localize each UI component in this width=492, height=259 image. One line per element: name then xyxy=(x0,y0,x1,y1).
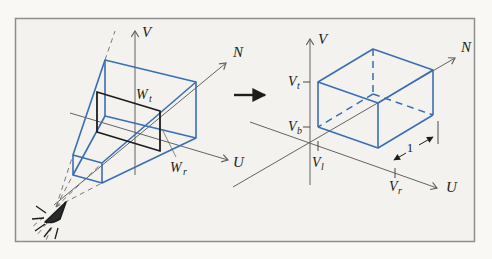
right-u-axis-label: U xyxy=(446,179,458,195)
svg-text:l: l xyxy=(321,161,324,172)
diagram-canvas: V N U W t W r xyxy=(0,0,492,259)
right-n-axis-label: N xyxy=(460,39,472,55)
depth-dimension-label: 1 xyxy=(407,140,414,155)
svg-text:r: r xyxy=(398,185,402,196)
figure-frame xyxy=(16,19,475,242)
svg-text:W: W xyxy=(170,160,183,175)
svg-text:W: W xyxy=(136,87,149,102)
left-n-axis-label: N xyxy=(232,44,244,60)
left-u-axis-label: U xyxy=(233,154,245,170)
svg-text:t: t xyxy=(297,80,300,91)
view-volume-diagram: V N U W t W r xyxy=(0,0,492,259)
svg-text:r: r xyxy=(183,166,187,177)
svg-text:b: b xyxy=(297,125,302,136)
svg-text:t: t xyxy=(149,93,152,104)
